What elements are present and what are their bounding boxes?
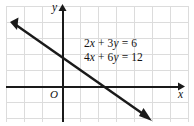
equation-annotations: 2x + 3y = 6 4x + 6y = 12 — [84, 36, 186, 64]
equation-2: 4x + 6y = 12 — [84, 50, 186, 64]
origin-label: O — [50, 88, 58, 100]
y-axis-arrowhead — [59, 4, 67, 11]
line-arrowhead-lower-right — [139, 108, 152, 121]
equation-1: 2x + 3y = 6 — [84, 36, 186, 50]
grid-lines — [6, 6, 189, 122]
graph-figure: 2x + 3y = 6 4x + 6y = 12 y x O — [0, 0, 194, 126]
line-arrowhead-upper-left — [10, 18, 19, 31]
x-axis-label: x — [178, 88, 183, 100]
y-axis-label: y — [52, 1, 57, 13]
